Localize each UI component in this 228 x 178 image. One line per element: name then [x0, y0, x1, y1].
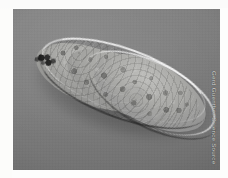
vignette-overlay [13, 9, 220, 170]
microscopy-photograph: Gerd Guenther Science Source [13, 9, 220, 170]
page-container: Gerd Guenther Science Source [0, 0, 228, 178]
photo-credit: Gerd Guenther Science Source [211, 71, 217, 164]
